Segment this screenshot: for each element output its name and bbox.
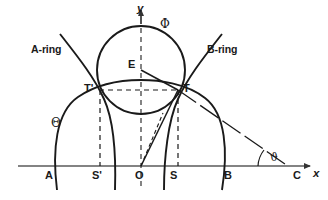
point-label-c: C [293,170,301,181]
curve-label-b-ring: B-ring [207,44,237,55]
geometry-figure: y x Φ Θ A-ring B-ring E T' T A S' O S B … [0,0,328,200]
angle-label-theta-at-c: ϑ [270,152,278,163]
point-label-b: B [224,170,232,181]
y-axis-label: y [137,3,143,15]
angle-arc-at-c [258,150,264,166]
point-label-s-prime: S' [92,170,102,181]
segment-t-c [178,90,285,164]
point-label-t-prime: T' [84,83,93,94]
curve-label-theta: Θ [51,117,61,129]
point-label-t: T [183,83,190,94]
point-label-a: A [45,170,53,181]
curve-label-phi: Φ [160,18,170,30]
point-label-s: S [170,170,177,181]
ray-through-o-dashed [141,113,163,166]
point-label-o: O [135,170,144,181]
x-axis-label: x [313,168,319,180]
curve-label-a-ring: A-ring [31,44,61,55]
point-label-e: E [128,59,135,70]
segment-o-t [141,90,178,166]
